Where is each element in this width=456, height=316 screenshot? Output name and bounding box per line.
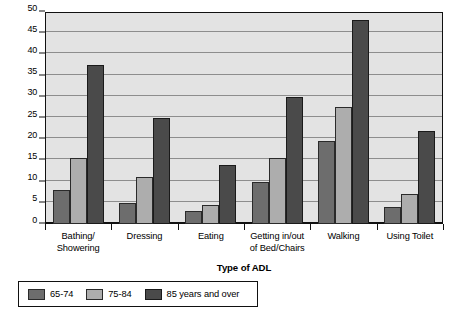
x-tick-mark [178, 224, 179, 230]
bar-groups [45, 12, 443, 224]
bar-group [244, 12, 310, 224]
chart-legend: 65-7475-8485 years and over [18, 281, 258, 307]
legend-item[interactable]: 65-74 [28, 289, 73, 300]
y-tick-label-40: 40 [3, 45, 37, 54]
bar-65-74 [384, 207, 401, 224]
y-tick-label-5: 5 [3, 194, 37, 203]
x-axis-label-line: Showering [46, 243, 110, 255]
bar-75-84 [70, 158, 87, 224]
y-tick-label-25: 25 [3, 109, 37, 118]
bar-75-84 [335, 107, 352, 224]
x-axis-label: Eating [178, 231, 244, 254]
bar-65-74 [53, 190, 70, 224]
bar-group [178, 12, 244, 224]
bar-65-74 [318, 141, 335, 224]
legend-swatch-icon [86, 289, 103, 300]
x-axis-label-line [179, 243, 243, 255]
x-axis-label-line: Bathing/ [46, 231, 110, 243]
x-axis-label-line: Dressing [112, 231, 176, 243]
bar-group [45, 12, 111, 224]
x-axis-label-line: Eating [179, 231, 243, 243]
x-axis-title: Type of ADL [45, 262, 443, 273]
bar-group [377, 12, 443, 224]
x-axis-label: Walking [310, 231, 376, 254]
y-tick-label-30: 30 [3, 88, 37, 97]
bar-group [111, 12, 177, 224]
x-axis-label-line: Getting in/out [245, 231, 309, 243]
x-axis-label-line [112, 243, 176, 255]
x-axis-label-line: of Bed/Chairs [245, 243, 309, 255]
bar-chart-figure: 05101520253035404550 Bathing/ShoweringDr… [0, 0, 456, 316]
x-tick-mark [377, 224, 378, 230]
y-tick-label-50: 50 [3, 3, 37, 12]
bar-75-84 [269, 158, 286, 224]
x-tick-mark [45, 224, 46, 230]
legend-label: 65-74 [50, 289, 73, 299]
bar-85-years-and-over [153, 118, 170, 224]
x-axis-label: Getting in/outof Bed/Chairs [244, 231, 310, 254]
x-axis-label-line: Using Toilet [378, 231, 442, 243]
legend-item[interactable]: 85 years and over [145, 289, 240, 300]
legend-label: 85 years and over [167, 289, 240, 299]
bar-85-years-and-over [286, 97, 303, 224]
x-tick-mark [244, 224, 245, 230]
bar-85-years-and-over [352, 20, 369, 224]
y-tick-label-10: 10 [3, 173, 37, 182]
x-axis-label-line [311, 243, 375, 255]
y-tick-label-20: 20 [3, 130, 37, 139]
y-axis: 05101520253035404550 [0, 12, 45, 224]
x-tick-mark [111, 224, 112, 230]
bar-85-years-and-over [87, 65, 104, 224]
x-axis-label-line: Walking [311, 231, 375, 243]
x-axis-label: Bathing/Showering [45, 231, 111, 254]
bar-65-74 [252, 182, 269, 224]
bar-75-84 [136, 177, 153, 224]
x-tick-mark [443, 224, 444, 230]
y-tick-label-45: 45 [3, 24, 37, 33]
y-tick-label-0: 0 [3, 215, 37, 224]
x-axis-label: Using Toilet [377, 231, 443, 254]
y-tick-label-35: 35 [3, 67, 37, 76]
x-axis-label-line [378, 243, 442, 255]
legend-swatch-icon [145, 289, 162, 300]
bar-85-years-and-over [219, 165, 236, 224]
legend-label: 75-84 [108, 289, 131, 299]
bar-65-74 [185, 211, 202, 224]
x-axis-ticks [45, 224, 443, 230]
bar-group [310, 12, 376, 224]
bar-85-years-and-over [418, 131, 435, 224]
bar-75-84 [202, 205, 219, 224]
bar-75-84 [401, 194, 418, 224]
legend-item[interactable]: 75-84 [86, 289, 131, 300]
x-tick-mark [310, 224, 311, 230]
y-tick-label-15: 15 [3, 151, 37, 160]
legend-swatch-icon [28, 289, 45, 300]
x-axis-label: Dressing [111, 231, 177, 254]
bar-65-74 [119, 203, 136, 224]
x-axis-labels: Bathing/ShoweringDressing Eating Getting… [45, 231, 443, 254]
